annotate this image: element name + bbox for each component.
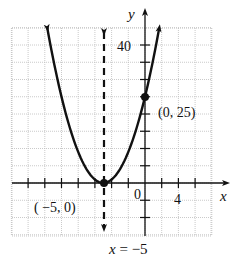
origin-label: 0: [134, 187, 141, 202]
x-axis-label: x: [219, 188, 227, 204]
y-tick-label-40: 40: [117, 39, 131, 54]
axis-of-symmetry-label: x = −5: [108, 241, 148, 257]
y-intercept-point: [141, 93, 149, 101]
vertex-label: ( −5, 0): [34, 200, 76, 216]
x-tick-label-4: 4: [174, 192, 181, 207]
parabola-graph: y x 40 0 4 ( −5, 0) (0, 25) x = −5: [0, 0, 234, 264]
vertex-point: [100, 179, 108, 187]
y-axis-label: y: [126, 6, 135, 22]
y-intercept-label: (0, 25): [158, 105, 196, 121]
